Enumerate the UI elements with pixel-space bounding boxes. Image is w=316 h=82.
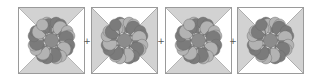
flower-center: [192, 34, 206, 48]
plus-sign-2: +: [157, 35, 165, 47]
quilt-tile-2: [91, 7, 158, 74]
flower-center: [45, 34, 59, 48]
quilt-tile-4: [237, 7, 304, 74]
plus-sign-3: +: [229, 35, 237, 47]
plus-sign-1: +: [83, 35, 91, 47]
flower-center: [264, 34, 278, 48]
quilt-tile-3: [165, 7, 232, 74]
quilt-tile-1: [18, 7, 85, 74]
flower-center: [118, 34, 132, 48]
